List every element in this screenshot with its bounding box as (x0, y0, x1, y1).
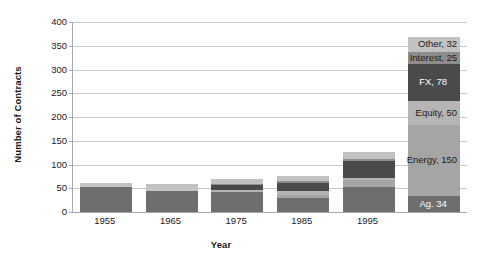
y-tick-mark-0 (69, 212, 73, 213)
annotation-energy: Energy, 150 (289, 155, 459, 165)
x-tick-label-1975: 1975 (202, 216, 270, 226)
bar-segment-ag[interactable] (343, 187, 395, 212)
y-tick-mark-100 (69, 165, 73, 166)
y-axis-title: Number of Contracts (12, 35, 23, 195)
bar-segment-energy[interactable] (343, 180, 395, 188)
x-tick-label-1985: 1985 (268, 216, 336, 226)
y-tick-mark-150 (69, 141, 73, 142)
annotation-fx: FX, 78 (407, 77, 459, 87)
bar-segment-ag[interactable] (80, 187, 132, 212)
y-tick-mark-350 (69, 46, 73, 47)
bar-segment-ag[interactable] (146, 191, 198, 212)
stacked-bar-chart: Number of Contracts 05010015020025030035… (0, 0, 478, 265)
y-tick-label-0: 0 (31, 207, 67, 217)
y-tick-mark-250 (69, 93, 73, 94)
bar-1965[interactable] (146, 184, 198, 212)
annotation-other: Other, 32 (289, 39, 459, 49)
bar-segment-other[interactable] (146, 184, 198, 190)
y-tick-label-50: 50 (31, 183, 67, 193)
y-tick-label-400: 400 (31, 17, 67, 27)
y-tick-mark-200 (69, 117, 73, 118)
y-tick-label-300: 300 (31, 65, 67, 75)
bar-segment-fx[interactable] (211, 184, 263, 190)
y-tick-label-200: 200 (31, 112, 67, 122)
bar-segment-other[interactable] (211, 179, 263, 184)
bar-1955[interactable] (80, 183, 132, 212)
y-tick-mark-300 (69, 70, 73, 71)
bar-segment-fx[interactable] (277, 183, 329, 191)
bar-segment-other[interactable] (80, 183, 132, 188)
bar-1975[interactable] (211, 179, 263, 212)
x-tick-label-1955: 1955 (71, 216, 139, 226)
gridline-0 (73, 212, 467, 213)
bar-segment-interest[interactable] (211, 184, 263, 185)
bar-segment-other[interactable] (277, 176, 329, 181)
y-tick-label-150: 150 (31, 136, 67, 146)
bar-last[interactable] (408, 37, 460, 212)
annotation-ag: Ag. 34 (407, 199, 459, 209)
y-tick-label-100: 100 (31, 160, 67, 170)
bar-segment-equity[interactable] (211, 190, 263, 192)
x-axis-title-text: Year (211, 239, 231, 250)
y-tick-label-250: 250 (31, 88, 67, 98)
annotation-interest: Interest, 25 (289, 53, 459, 63)
bar-segment-equity[interactable] (277, 191, 329, 195)
x-tick-label-1995: 1995 (334, 216, 402, 226)
bar-segment-ag[interactable] (211, 192, 263, 212)
bar-segment-interest[interactable] (277, 181, 329, 183)
y-tick-mark-400 (69, 22, 73, 23)
y-tick-label-350: 350 (31, 41, 67, 51)
bar-segment-energy[interactable] (277, 195, 329, 198)
x-axis-title: Year (0, 239, 478, 250)
bar-segment-ag[interactable] (277, 198, 329, 212)
annotation-equity: Equity, 50 (289, 108, 459, 118)
x-tick-label-1965: 1965 (137, 216, 205, 226)
bar-1985[interactable] (277, 176, 329, 212)
bar-segment-equity[interactable] (343, 178, 395, 180)
y-tick-mark-50 (69, 188, 73, 189)
gridline-400 (73, 22, 467, 23)
